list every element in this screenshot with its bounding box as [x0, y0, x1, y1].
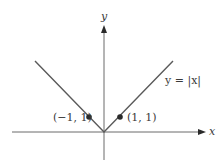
function-label: y = |x|	[164, 74, 201, 88]
absolute-value-graph: y x y = |x| (−1, 1) (1, 1)	[0, 0, 224, 167]
x-axis-label: x	[209, 125, 216, 138]
point-left-label: (−1, 1)	[53, 111, 92, 124]
point-right	[117, 114, 123, 120]
y-axis-arrow-icon	[101, 25, 107, 33]
x-axis-arrow-icon	[198, 129, 206, 135]
y-axis-label: y	[100, 10, 108, 23]
point-right-label: (1, 1)	[127, 111, 157, 124]
